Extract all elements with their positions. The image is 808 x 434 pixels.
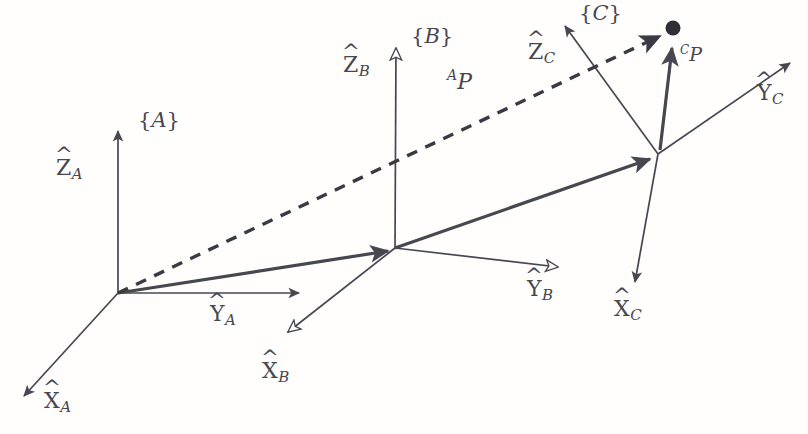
frame-c-axes	[565, 26, 790, 282]
vector-label-c-p: CP	[680, 44, 702, 64]
frame-b-axes	[288, 48, 558, 332]
axis-label-y-b: YB	[527, 278, 553, 303]
vector-a-to-p-dashed	[118, 36, 660, 293]
coordinate-frames-diagram: {A} ZA YA XA {B} ZB YB XB {C} ZC YC XC A…	[0, 0, 808, 434]
frame-label-c: {C}	[579, 3, 622, 24]
axis-label-x-a: XA	[44, 390, 71, 415]
vector-label-a-p: AP	[447, 68, 472, 93]
axis-label-y-a: YA	[210, 303, 236, 328]
diagram-canvas	[0, 0, 808, 434]
frame-label-a: {A}	[138, 110, 180, 131]
axis-label-x-c: XC	[614, 298, 642, 323]
axis-label-z-a: ZA	[56, 157, 83, 182]
point-p-marker	[666, 21, 681, 36]
axis-x-a	[24, 293, 118, 396]
vector-b-to-c	[395, 159, 650, 248]
vector-c-to-p	[660, 48, 672, 150]
axis-label-x-b: XB	[262, 360, 289, 385]
frame-label-b: {B}	[411, 26, 453, 47]
axis-label-z-c: ZC	[528, 41, 555, 66]
axis-x-c	[635, 154, 658, 282]
axis-z-b	[395, 48, 396, 248]
axis-label-z-b: ZB	[343, 54, 370, 79]
axis-x-b	[288, 248, 395, 332]
axis-label-y-c: YC	[757, 82, 784, 107]
